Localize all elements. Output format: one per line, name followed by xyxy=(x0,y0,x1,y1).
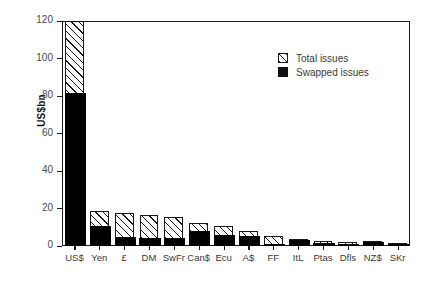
x-axis-label: Ecu xyxy=(215,252,231,263)
x-axis: US$Yen£DMSwFrCan$EcuA$FFItLPtasDflsNZ$SK… xyxy=(62,246,410,280)
bar-segment-swapped-issues xyxy=(139,238,160,246)
bar-group xyxy=(140,215,159,246)
x-tick-mark xyxy=(174,246,175,250)
x-axis-label: SwFr xyxy=(163,252,185,263)
bar-segment-total-issues xyxy=(289,239,308,247)
bar-group xyxy=(90,211,109,246)
legend-label: Swapped issues xyxy=(296,67,369,78)
x-axis-label: Can$ xyxy=(187,252,210,263)
x-axis-label: DM xyxy=(142,252,157,263)
x-tick-mark xyxy=(348,246,349,250)
bar-segment-swapped-issues xyxy=(90,226,111,246)
bar-segment-swapped-issues xyxy=(189,231,210,246)
x-tick-mark xyxy=(323,246,324,250)
x-tick-mark xyxy=(273,246,274,250)
bar-segment-total-issues xyxy=(264,236,283,246)
x-tick-mark xyxy=(74,246,75,250)
bar-group xyxy=(189,223,208,246)
bar-segment-total-issues xyxy=(164,217,183,246)
x-axis-label: SKr xyxy=(390,252,406,263)
x-axis-label: Yen xyxy=(91,252,107,263)
x-tick-mark xyxy=(124,246,125,250)
y-tick-label: 20 xyxy=(42,202,53,213)
bar-group xyxy=(65,21,84,246)
x-tick-mark xyxy=(248,246,249,250)
bar-segment-swapped-issues xyxy=(65,93,86,246)
y-tick-label: 40 xyxy=(42,164,53,175)
filled-square-icon xyxy=(278,67,288,77)
bar-segment-swapped-issues xyxy=(214,235,235,246)
bar-segment-total-issues xyxy=(214,226,233,246)
legend-item: Swapped issues xyxy=(278,66,369,78)
bar-segment-total-issues xyxy=(65,21,84,246)
x-axis-label: ItL xyxy=(293,252,304,263)
bar-segment-swapped-issues xyxy=(115,237,136,246)
x-tick-mark xyxy=(99,246,100,250)
y-tick-label: 60 xyxy=(42,127,53,138)
x-tick-mark xyxy=(398,246,399,250)
y-tick-label: 120 xyxy=(36,14,53,25)
bar-segment-total-issues xyxy=(115,213,134,246)
x-axis-label: FF xyxy=(267,252,279,263)
legend: Total issuesSwapped issues xyxy=(278,52,369,80)
bar-segment-total-issues xyxy=(140,215,159,246)
bar-segment-total-issues xyxy=(189,223,208,246)
x-tick-mark xyxy=(149,246,150,250)
hatched-square-icon xyxy=(278,53,288,63)
x-axis-label: Ptas xyxy=(313,252,332,263)
x-tick-mark xyxy=(373,246,374,250)
bar-group xyxy=(164,217,183,246)
x-tick-mark xyxy=(298,246,299,250)
x-axis-label: Dfls xyxy=(340,252,356,263)
y-tick-label: 0 xyxy=(47,239,53,250)
y-tick-label: 100 xyxy=(36,52,53,63)
x-axis-label: NZ$ xyxy=(364,252,382,263)
bar-group xyxy=(214,226,233,246)
bar-group xyxy=(289,239,308,247)
y-tick-label: 80 xyxy=(42,89,53,100)
bar-group xyxy=(115,213,134,246)
bar-group xyxy=(239,231,258,246)
bar-segment-total-issues xyxy=(239,231,258,246)
bar-segment-swapped-issues xyxy=(164,238,185,246)
bar-segment-swapped-issues xyxy=(239,236,260,246)
x-tick-mark xyxy=(224,246,225,250)
x-axis-label: A$ xyxy=(243,252,255,263)
bar-segment-total-issues xyxy=(90,211,109,246)
bar-chart: US$bn 020406080100120 US$Yen£DMSwFrCan$E… xyxy=(0,0,436,283)
x-axis-label: £ xyxy=(121,252,126,263)
bar-group xyxy=(264,236,283,246)
legend-item: Total issues xyxy=(278,52,369,64)
legend-label: Total issues xyxy=(296,53,348,64)
x-tick-mark xyxy=(199,246,200,250)
x-axis-label: US$ xyxy=(65,252,83,263)
